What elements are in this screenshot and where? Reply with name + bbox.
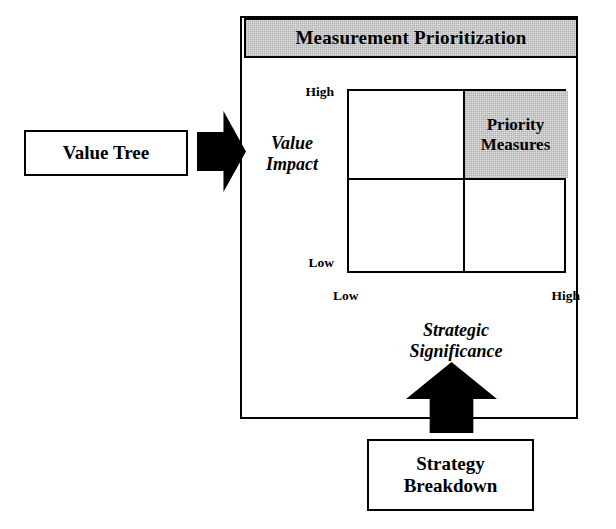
y-axis-title: Value Impact (242, 133, 342, 175)
x-axis-title-line2: Significance (410, 341, 503, 361)
prioritization-matrix: Priority Measures (347, 89, 566, 273)
y-axis-title-line2: Impact (266, 154, 318, 174)
arrow-right-icon (197, 111, 246, 192)
x-axis-tick-low: Low (333, 288, 359, 304)
y-axis-title-line1: Value (271, 133, 313, 153)
value-tree-box: Value Tree (24, 130, 188, 176)
panel-header: Measurement Prioritization (244, 18, 578, 58)
matrix-horizontal-divider (349, 178, 564, 180)
strategy-breakdown-label: Strategy Breakdown (404, 453, 498, 496)
strategy-breakdown-box: Strategy Breakdown (367, 439, 534, 511)
diagram-canvas: Measurement Prioritization Priority Meas… (0, 0, 616, 529)
priority-measures-line1: Priority (487, 115, 545, 134)
matrix-cell-priority-measures: Priority Measures (463, 91, 568, 178)
strategy-breakdown-line1: Strategy (416, 453, 485, 474)
priority-measures-line2: Measures (481, 135, 551, 154)
priority-measures-label: Priority Measures (481, 115, 551, 153)
x-axis-title: Strategic Significance (370, 320, 542, 362)
value-tree-label: Value Tree (63, 142, 149, 164)
y-axis-tick-high: High (246, 84, 334, 100)
x-axis-title-line1: Strategic (423, 320, 489, 340)
matrix-vertical-divider (463, 91, 465, 271)
x-axis-tick-high: High (540, 288, 580, 304)
strategy-breakdown-line2: Breakdown (404, 475, 498, 496)
y-axis-tick-low: Low (246, 255, 334, 271)
panel-header-title: Measurement Prioritization (295, 27, 526, 49)
